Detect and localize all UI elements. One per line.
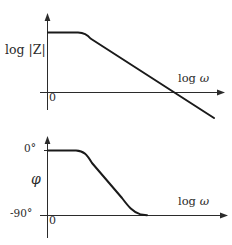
magnitude-panel [40, 13, 225, 118]
phase-x-axis-arrow-icon [220, 213, 228, 219]
phase-origin-label: 0 [49, 215, 56, 226]
phase-y-axis-arrow-icon [45, 136, 51, 144]
phase-panel [40, 136, 228, 238]
magnitude-x-axis-label-prefix: log [178, 71, 200, 85]
phase-y-axis-label: φ [31, 172, 41, 186]
phase-curve [48, 151, 147, 216]
bode-plot-figure: log |Z| log ω 0 φ 0° -90° log ω 0 [0, 0, 232, 245]
phase-x-axis-label-prefix: log [178, 194, 200, 208]
bode-plot-canvas [0, 0, 232, 245]
magnitude-x-axis-arrow-icon [217, 90, 225, 96]
phase-ytick-label-zero-deg: 0° [24, 143, 36, 154]
magnitude-y-axis-arrow-icon [45, 13, 51, 21]
phase-ytick-label-minus-ninety-deg: -90° [10, 208, 32, 219]
magnitude-y-axis-label: log |Z| [5, 44, 46, 57]
magnitude-x-axis-label-symbol: ω [200, 71, 209, 85]
phase-x-axis-label: log ω [178, 196, 209, 208]
magnitude-x-axis-label: log ω [178, 73, 209, 85]
phase-x-axis-label-symbol: ω [200, 194, 209, 208]
magnitude-origin-label: 0 [49, 92, 56, 103]
